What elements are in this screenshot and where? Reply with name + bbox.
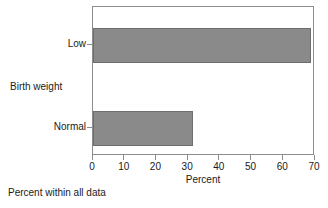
x-tick-label: 70 [299, 162, 328, 172]
y-tick-label-normal: Normal [0, 122, 86, 132]
x-tick-mark [123, 155, 124, 160]
x-tick-mark [92, 155, 93, 160]
bar-chart: Birth weight Low Normal 010203040506070 … [0, 0, 328, 208]
x-tick-mark [155, 155, 156, 160]
y-axis-title: Birth weight [10, 82, 62, 92]
x-tick-mark [250, 155, 251, 160]
y-tick-label-low: Low [0, 39, 86, 49]
x-tick-label: 40 [204, 162, 234, 172]
x-tick-mark [282, 155, 283, 160]
x-axis-title: Percent [92, 175, 314, 185]
x-tick-label: 50 [236, 162, 266, 172]
bar-low[interactable] [93, 28, 311, 63]
x-tick-label: 0 [77, 162, 107, 172]
x-tick-mark [218, 155, 219, 160]
x-tick-label: 60 [267, 162, 297, 172]
chart-footnote: Percent within all data [8, 188, 106, 198]
x-tick-label: 10 [109, 162, 139, 172]
x-tick-mark [187, 155, 188, 160]
bar-normal[interactable] [93, 111, 193, 146]
x-tick-mark [314, 155, 315, 160]
x-tick-label: 30 [172, 162, 202, 172]
plot-area [92, 6, 314, 155]
x-tick-label: 20 [140, 162, 170, 172]
